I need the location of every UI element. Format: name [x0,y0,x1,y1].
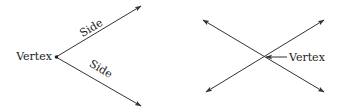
vertex-point [55,55,59,59]
right-intersecting-lines-diagram: Vertex [203,20,326,92]
left-angle-diagram: Vertex Side Side [15,6,141,106]
left-vertex-label: Vertex [15,50,53,63]
right-vertex-label: Vertex [288,51,326,64]
upper-side-ray [56,6,141,57]
angle-diagrams: Vertex Side Side Vertex [0,0,337,112]
